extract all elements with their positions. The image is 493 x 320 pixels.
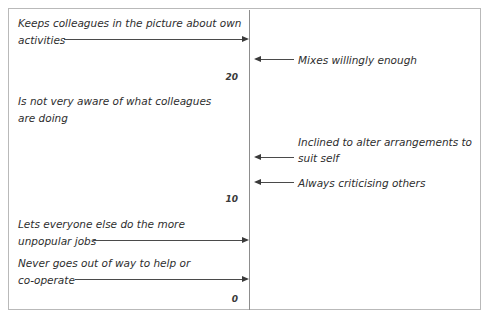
- left-item-2-line-2: are doing: [18, 110, 68, 127]
- left-item-3-connector-line: [93, 240, 243, 241]
- right-item-1-line-1: Mixes willingly enough: [298, 52, 417, 69]
- left-item-4-line-1: Never goes out of way to help or: [18, 255, 190, 272]
- right-item-3-connector-line: [261, 182, 294, 183]
- right-item-2-connector-line: [261, 157, 294, 158]
- right-item-2-line-2: suit self: [298, 150, 339, 167]
- left-item-3-line-1: Lets everyone else do the more: [18, 216, 185, 233]
- left-item-1-arrow-right-icon: [242, 36, 249, 42]
- left-item-1-line-2: activities: [18, 32, 65, 49]
- left-item-4-connector-line: [75, 279, 243, 280]
- axis-tick-label-20: 20: [212, 72, 238, 82]
- left-item-2-line-1: Is not very aware of what colleagues: [18, 93, 211, 110]
- axis-tick-label-0: 0: [212, 294, 238, 304]
- right-item-1-connector-line: [261, 59, 294, 60]
- left-item-4-line-2: co-operate: [18, 272, 75, 289]
- left-item-1-connector-line: [64, 39, 243, 40]
- left-item-1-line-1: Keeps colleagues in the picture about ow…: [18, 15, 241, 32]
- left-item-3-arrow-right-icon: [242, 237, 249, 243]
- right-item-3-arrow-left-icon: [254, 179, 261, 185]
- axis-tick-label-10: 10: [212, 194, 238, 204]
- left-item-3-line-2: unpopular jobs: [18, 233, 96, 250]
- right-item-2-line-1: Inclined to alter arrangements to: [298, 134, 472, 151]
- vertical-axis: [249, 10, 250, 310]
- rating-scale-diagram: 20 10 0 Keeps colleagues in the picture …: [0, 0, 493, 320]
- right-item-2-arrow-left-icon: [254, 154, 261, 160]
- right-item-3-line-1: Always criticising others: [298, 175, 425, 192]
- left-item-4-arrow-right-icon: [242, 276, 249, 282]
- right-item-1-arrow-left-icon: [254, 56, 261, 62]
